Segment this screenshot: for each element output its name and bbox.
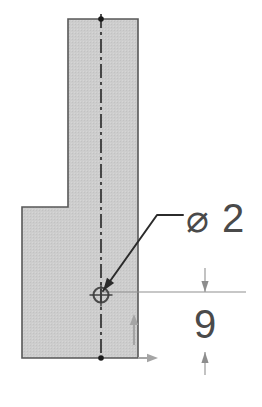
centerline-endpoint-bottom-dot — [98, 355, 104, 361]
vertical-dimension-group: 9 — [194, 268, 216, 375]
dimension-arrowhead-upper — [201, 281, 208, 292]
dimension-arrowhead-lower — [201, 352, 208, 363]
dimension-value-label: 9 — [194, 302, 216, 346]
diameter-symbol: ⌀ — [186, 198, 209, 240]
drawing-svg: ⌀ 2 9 — [0, 0, 262, 407]
centerline-endpoint-top-dot — [98, 16, 104, 22]
part-section-outline — [22, 19, 138, 358]
diameter-value-label: 2 — [222, 196, 244, 240]
x-axis-arrow-head — [147, 354, 158, 362]
technical-drawing-canvas: ⌀ 2 9 — [0, 0, 262, 407]
